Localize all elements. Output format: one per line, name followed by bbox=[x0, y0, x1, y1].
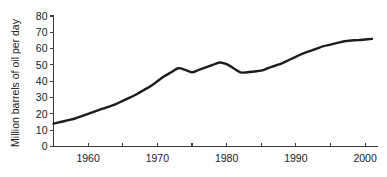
y-tick-label: 50 bbox=[36, 59, 48, 71]
chart-canvas: 01020304050607080 19601970198019902000 M… bbox=[0, 0, 387, 177]
y-tick-label: 80 bbox=[36, 10, 48, 22]
x-tick-label: 1990 bbox=[284, 152, 308, 164]
y-tick-label: 30 bbox=[36, 91, 48, 103]
y-axis-title: Million barrels of oil per day bbox=[9, 18, 21, 147]
x-tick-label: 2000 bbox=[353, 152, 377, 164]
chart-background bbox=[0, 0, 387, 177]
y-tick-label: 20 bbox=[36, 108, 48, 120]
y-tick-label: 40 bbox=[36, 75, 48, 87]
oil-production-chart: 01020304050607080 19601970198019902000 M… bbox=[0, 0, 387, 177]
y-tick-label: 10 bbox=[36, 124, 48, 136]
y-tick-label: 70 bbox=[36, 26, 48, 38]
x-tick-label: 1960 bbox=[76, 152, 100, 164]
y-tick-label: 0 bbox=[42, 140, 48, 152]
x-tick-label: 1980 bbox=[215, 152, 239, 164]
y-tick-label: 60 bbox=[36, 42, 48, 54]
x-tick-label: 1970 bbox=[146, 152, 170, 164]
